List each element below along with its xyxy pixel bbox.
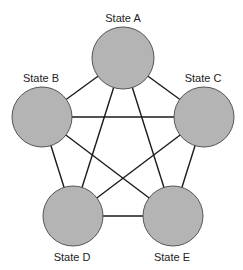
- state-label-c: State C: [185, 72, 222, 84]
- state-graph: State AState BState CState DState E: [0, 0, 243, 270]
- state-label-e: State E: [154, 251, 190, 263]
- state-node-a: [92, 27, 154, 89]
- state-label-d: State D: [54, 251, 91, 263]
- state-node-e: [143, 186, 203, 246]
- nodes: [12, 27, 234, 246]
- state-label-a: State A: [105, 12, 141, 24]
- state-node-b: [12, 87, 72, 147]
- state-label-b: State B: [23, 72, 59, 84]
- state-node-d: [43, 186, 103, 246]
- state-node-c: [174, 87, 234, 147]
